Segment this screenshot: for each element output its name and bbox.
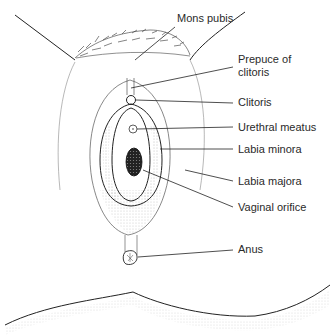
label-vaginal-orifice: Vaginal orifice bbox=[238, 201, 306, 214]
pubic-hair bbox=[75, 29, 190, 58]
clitoris-shape bbox=[127, 96, 136, 105]
mons-outline-right bbox=[190, 60, 204, 190]
label-clitoris: Clitoris bbox=[238, 96, 272, 109]
diagram-drawing bbox=[0, 0, 330, 335]
label-mons-pubis: Mons pubis bbox=[177, 12, 233, 25]
label-anus: Anus bbox=[238, 243, 263, 256]
mons-outline bbox=[58, 62, 75, 190]
vaginal-orifice-shape bbox=[126, 148, 142, 176]
label-urethral-meatus: Urethral meatus bbox=[238, 121, 316, 134]
label-prepuce-of-clitoris: Prepuce of bbox=[238, 53, 291, 66]
label-labia-minora: Labia minora bbox=[238, 143, 302, 156]
label-labia-majora: Labia majora bbox=[238, 175, 302, 188]
left-thigh-line bbox=[15, 15, 75, 60]
anatomy-diagram: Mons pubis Prepuce of clitoris Clitoris … bbox=[0, 0, 330, 335]
label-prepuce-of-clitoris-line2: clitoris bbox=[238, 66, 269, 79]
